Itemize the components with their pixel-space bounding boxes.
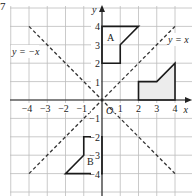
y-axis-label: y xyxy=(91,4,97,15)
y-tick-label: 3 xyxy=(95,40,100,51)
line-label-y-x: y = x xyxy=(167,34,189,45)
y-tick-label: 4 xyxy=(95,21,100,32)
y-tick-label: −1 xyxy=(89,113,100,124)
axes xyxy=(10,5,192,196)
x-axis-arrow-icon xyxy=(185,97,192,103)
y-axis-arrow-icon xyxy=(99,5,105,12)
x-tick-label: −1 xyxy=(76,103,87,114)
x-tick-label: 4 xyxy=(173,103,178,114)
shape-label-a: A xyxy=(107,32,115,43)
coordinate-grid-figure: −4−3−2−112344321−1−2−3−4xyOy = −xy = xAB xyxy=(0,0,192,196)
y-tick-label: −2 xyxy=(89,132,100,143)
x-tick-label: −4 xyxy=(22,103,33,114)
x-tick-label: −3 xyxy=(40,103,51,114)
shape-label-b: B xyxy=(87,156,94,167)
x-tick-label: 1 xyxy=(118,103,123,114)
x-tick-label: 3 xyxy=(154,103,159,114)
y-tick-label: 1 xyxy=(95,77,100,88)
y-tick-label: −4 xyxy=(89,169,100,180)
x-tick-label: −2 xyxy=(58,103,69,114)
x-axis-label: x xyxy=(183,104,189,115)
line-label-y-neg-x: y = −x xyxy=(11,46,40,57)
origin-label: O xyxy=(106,105,113,116)
x-tick-label: 2 xyxy=(136,103,141,114)
y-tick-label: 2 xyxy=(95,58,100,69)
